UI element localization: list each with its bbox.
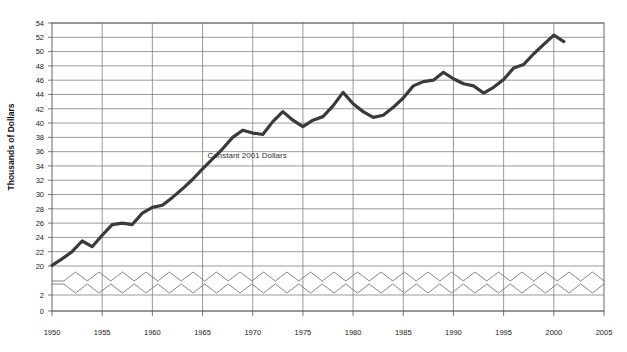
- x-axis-ticks: [52, 311, 604, 316]
- zigzag-break-line: [52, 284, 604, 293]
- zigzag-break-line: [52, 272, 604, 281]
- y-tick-label: 36: [36, 147, 44, 156]
- x-tick-label: 2005: [596, 328, 613, 337]
- y-tick-label: 44: [36, 90, 44, 99]
- y-tick-label: 2: [40, 291, 44, 300]
- x-tick-label: 1965: [194, 328, 211, 337]
- x-tick-label: 1960: [144, 328, 161, 337]
- y-tick-label: 30: [36, 190, 44, 199]
- y-tick-label: 34: [36, 162, 44, 171]
- data-series-line: [52, 35, 564, 265]
- y-axis-ticks: [48, 23, 52, 311]
- y-tick-label: 40: [36, 119, 44, 128]
- x-tick-label: 1990: [445, 328, 462, 337]
- x-tick-label: 1995: [495, 328, 512, 337]
- y-tick-label: 42: [36, 105, 44, 114]
- y-tick-label: 28: [36, 205, 44, 214]
- y-tick-label: 52: [36, 33, 44, 42]
- axis-break-zigzag: [52, 272, 604, 293]
- y-axis-title: Thousands of Dollars: [6, 103, 16, 190]
- y-axis-tick-labels: 02202224262830323436384042444648505254: [36, 19, 44, 316]
- y-tick-label: 20: [36, 262, 44, 271]
- x-tick-label: 2000: [545, 328, 562, 337]
- y-tick-label: 50: [36, 47, 44, 56]
- y-tick-label: 48: [36, 62, 44, 71]
- x-tick-label: 1985: [395, 328, 412, 337]
- y-tick-label: 54: [36, 19, 44, 28]
- x-tick-label: 1970: [244, 328, 261, 337]
- x-tick-label: 1955: [94, 328, 111, 337]
- x-tick-label: 1975: [295, 328, 312, 337]
- chart-container: 02202224262830323436384042444648505254 1…: [0, 0, 627, 352]
- x-tick-label: 1980: [345, 328, 362, 337]
- y-tick-label: 46: [36, 76, 44, 85]
- y-tick-label: 26: [36, 219, 44, 228]
- x-tick-label: 1950: [44, 328, 61, 337]
- y-tick-label: 0: [40, 307, 44, 316]
- y-tick-label: 24: [36, 233, 44, 242]
- chart-annotation: Constant 2001 Dollars: [208, 151, 287, 160]
- x-axis-tick-labels: 1950195519601965197019751980198519901995…: [44, 328, 613, 337]
- y-tick-label: 38: [36, 133, 44, 142]
- line-chart: 02202224262830323436384042444648505254 1…: [0, 0, 627, 352]
- y-tick-label: 22: [36, 248, 44, 257]
- y-tick-label: 32: [36, 176, 44, 185]
